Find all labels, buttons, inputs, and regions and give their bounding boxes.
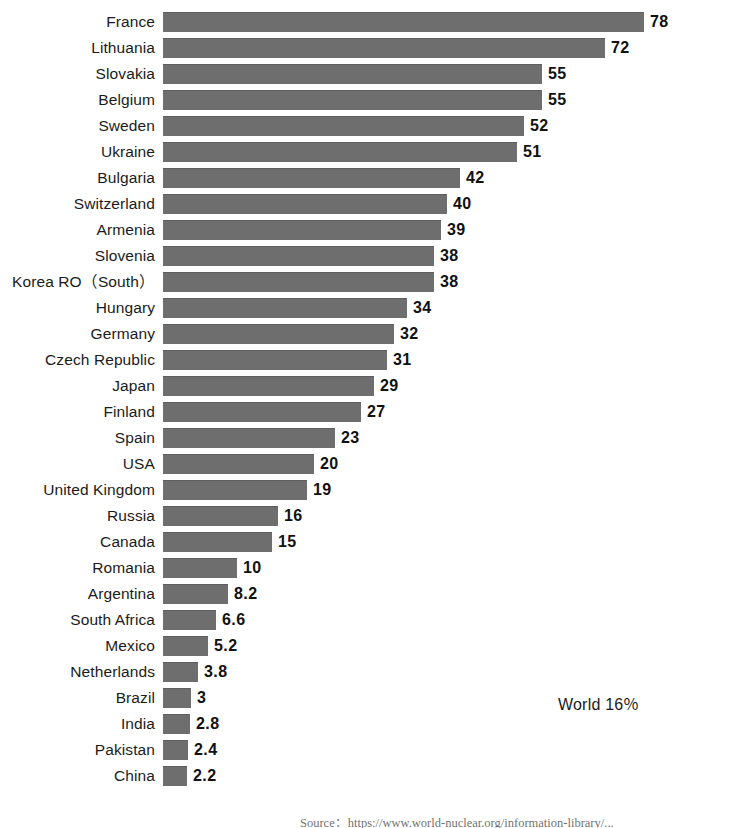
category-label: Finland — [103, 404, 155, 420]
bar-row: USA20 — [0, 454, 756, 474]
bar — [163, 246, 434, 266]
bar-value-label: 38 — [440, 248, 459, 264]
bar — [163, 350, 387, 370]
bar — [163, 584, 228, 604]
bar-value-label: 39 — [447, 222, 466, 238]
category-label: Lithuania — [91, 40, 155, 56]
bar — [163, 506, 278, 526]
bar — [163, 142, 517, 162]
bar-value-label: 51 — [523, 144, 542, 160]
bar-value-label: 42 — [466, 170, 485, 186]
bar — [163, 740, 188, 760]
bar-value-label: 32 — [400, 326, 419, 342]
bar-row: India2.8 — [0, 714, 756, 734]
bar-value-label: 16 — [284, 508, 303, 524]
bar — [163, 610, 216, 630]
bar — [163, 558, 237, 578]
bar-row: Korea RO（South）38 — [0, 272, 756, 292]
bar-row: Hungary34 — [0, 298, 756, 318]
category-label: Hungary — [96, 300, 155, 316]
bar-row: Russia16 — [0, 506, 756, 526]
category-label: Sweden — [98, 118, 155, 134]
world-average-annotation: World 16％ — [558, 691, 640, 715]
bar-chart-figure: France78Lithuania72Slovakia55Belgium55Sw… — [0, 0, 756, 828]
bar-row: Ukraine51 — [0, 142, 756, 162]
category-label: Ukraine — [101, 144, 155, 160]
bar-row: Germany32 — [0, 324, 756, 344]
bar — [163, 116, 524, 136]
bar-value-label: 55 — [548, 66, 567, 82]
bar-value-label: 6.6 — [222, 612, 245, 628]
category-label: Argentina — [88, 586, 155, 602]
category-label: Romania — [92, 560, 155, 576]
category-label: Japan — [112, 378, 155, 394]
category-label: China — [114, 768, 155, 784]
bar — [163, 480, 307, 500]
source-note: Source：https://www.world-nuclear.org/inf… — [300, 812, 756, 828]
bar-value-label: 8.2 — [234, 586, 257, 602]
bar-row: Netherlands3.8 — [0, 662, 756, 682]
bar — [163, 636, 208, 656]
category-label: Spain — [115, 430, 155, 446]
bar-value-label: 2.4 — [194, 742, 217, 758]
bar-row: Czech Republic31 — [0, 350, 756, 370]
bar-row: South Africa6.6 — [0, 610, 756, 630]
category-label: Korea RO（South） — [12, 274, 155, 290]
bar-row: Slovenia38 — [0, 246, 756, 266]
category-label: Slovenia — [95, 248, 155, 264]
category-label: Mexico — [105, 638, 155, 654]
bar-row: Japan29 — [0, 376, 756, 396]
bar-value-label: 72 — [611, 40, 630, 56]
bar-value-label: 20 — [320, 456, 339, 472]
bar — [163, 376, 374, 396]
bar-chart-plot-area: France78Lithuania72Slovakia55Belgium55Sw… — [0, 0, 756, 790]
bar-value-label: 19 — [313, 482, 332, 498]
bar-value-label: 38 — [440, 274, 459, 290]
category-label: United Kingdom — [43, 482, 155, 498]
bar — [163, 298, 407, 318]
bar-row: United Kingdom19 — [0, 480, 756, 500]
bar-row: Pakistan2.4 — [0, 740, 756, 760]
bar-value-label: 3.8 — [204, 664, 227, 680]
bar-row: Sweden52 — [0, 116, 756, 136]
bar — [163, 90, 542, 110]
category-label: Canada — [100, 534, 155, 550]
bar-value-label: 2.2 — [193, 768, 216, 784]
bar-row: Bulgaria42 — [0, 168, 756, 188]
bar-value-label: 40 — [453, 196, 472, 212]
bar-value-label: 5.2 — [214, 638, 237, 654]
bar — [163, 532, 272, 552]
bar — [163, 220, 441, 240]
bar-row: Canada15 — [0, 532, 756, 552]
bar — [163, 662, 198, 682]
bar-value-label: 3 — [197, 690, 206, 706]
bar-row: Argentina8.2 — [0, 584, 756, 604]
category-label: Bulgaria — [97, 170, 155, 186]
bar-value-label: 29 — [380, 378, 399, 394]
bar — [163, 766, 187, 786]
bar-value-label: 10 — [243, 560, 262, 576]
bar-row: Belgium55 — [0, 90, 756, 110]
category-label: Slovakia — [96, 66, 155, 82]
bar-value-label: 34 — [413, 300, 432, 316]
bar-value-label: 52 — [530, 118, 549, 134]
bar-value-label: 27 — [367, 404, 386, 420]
bar-value-label: 2.8 — [196, 716, 219, 732]
bar — [163, 194, 447, 214]
category-label: Armenia — [97, 222, 155, 238]
bar — [163, 688, 191, 708]
bar-row: Armenia39 — [0, 220, 756, 240]
category-label: Czech Republic — [45, 352, 155, 368]
category-label: USA — [123, 456, 155, 472]
bar-value-label: 78 — [650, 14, 669, 30]
bar — [163, 428, 335, 448]
category-label: Brazil — [116, 690, 155, 706]
bar-row: Finland27 — [0, 402, 756, 422]
category-label: Russia — [107, 508, 155, 524]
bar-row: Brazil3 — [0, 688, 756, 708]
bar-row: Romania10 — [0, 558, 756, 578]
category-label: Belgium — [98, 92, 155, 108]
bar — [163, 324, 394, 344]
bar-value-label: 55 — [548, 92, 567, 108]
bar-row: Lithuania72 — [0, 38, 756, 58]
